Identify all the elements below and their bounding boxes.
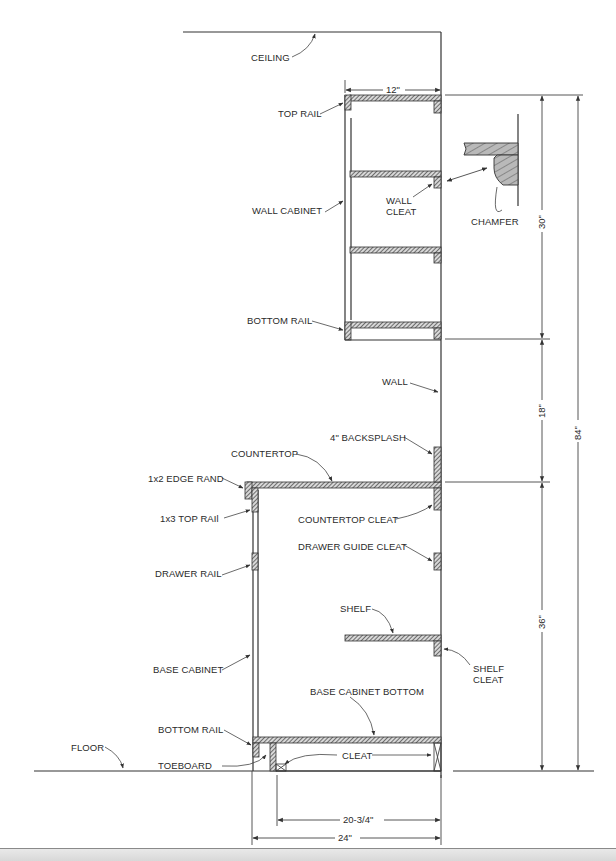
base-bottom-rail bbox=[253, 743, 259, 757]
wall-shelf-2 bbox=[350, 247, 441, 253]
label-base-cabinet-bottom: BASE CABINET BOTTOM bbox=[310, 686, 424, 697]
wall-cabinet-bottom bbox=[350, 322, 441, 328]
base-cabinet-bottom bbox=[253, 737, 441, 743]
label-wall-cleat-1: WALL bbox=[386, 195, 412, 206]
shelf-cleat bbox=[434, 641, 441, 656]
dim-cleat-span: 20-3/4" bbox=[343, 814, 373, 825]
wall-top-rail bbox=[345, 95, 351, 110]
dim-wall-cabinet-depth: 12" bbox=[386, 84, 400, 95]
label-bottom-rail-lower: BOTTOM RAIL bbox=[158, 724, 223, 735]
wall-shelf-1 bbox=[350, 171, 441, 177]
wall-bottom-rail bbox=[345, 322, 351, 340]
wall-cabinet-top bbox=[350, 95, 441, 101]
dim-gap-height: 18" bbox=[536, 404, 547, 418]
label-cleat: CLEAT bbox=[342, 750, 373, 761]
label-drawer-guide-cleat: DRAWER GUIDE CLEAT bbox=[298, 541, 407, 552]
dim-total-height: 84" bbox=[572, 426, 583, 440]
label-chamfer: CHAMFER bbox=[471, 216, 519, 227]
label-shelf: SHELF bbox=[340, 603, 371, 614]
label-edge-band: 1x2 EDGE RAND bbox=[148, 473, 224, 484]
dimension-labels: 12" 30" 18" 36" 84" 20-3/4" 24" bbox=[338, 84, 583, 843]
countertop-cleat bbox=[434, 488, 441, 510]
label-base-cabinet: BASE CABINET bbox=[153, 664, 223, 675]
label-top-rail: TOP RAIL bbox=[278, 108, 322, 119]
label-shelf-cleat-1: SHELF bbox=[473, 663, 504, 674]
vertical-dimensions bbox=[445, 95, 583, 770]
page-edge bbox=[0, 848, 616, 861]
shelf bbox=[345, 635, 441, 641]
label-wall-cleat-2: CLEAT bbox=[386, 206, 417, 217]
drawer-rail bbox=[252, 553, 258, 570]
label-wall-cabinet: WALL CABINET bbox=[252, 205, 322, 216]
label-drawer-rail: DRAWER RAIL bbox=[155, 568, 222, 579]
label-ceiling: CEILING bbox=[251, 52, 290, 63]
label-bottom-rail-upper: BOTTOM RAIL bbox=[247, 315, 312, 326]
label-countertop-cleat: COUNTERTOP CLEAT bbox=[298, 514, 398, 525]
edge-band bbox=[245, 482, 252, 499]
toeboard bbox=[270, 743, 276, 771]
drawer-guide-cleat bbox=[434, 553, 441, 570]
labels: CEILING TOP RAIL WALL CABINET WALL CLEAT… bbox=[71, 52, 519, 771]
dim-base-height: 36" bbox=[536, 615, 547, 629]
label-top-rail-base: 1x3 TOP RAIl bbox=[160, 513, 219, 524]
wall-cabinet bbox=[345, 95, 441, 340]
countertop bbox=[247, 482, 441, 488]
dim-wall-cabinet-height: 30" bbox=[536, 215, 547, 229]
horizontal-dimensions bbox=[252, 80, 441, 845]
label-shelf-cleat-2: CLEAT bbox=[473, 674, 504, 685]
chamfer-detail bbox=[447, 114, 518, 206]
dim-base-depth: 24" bbox=[338, 832, 352, 843]
backsplash bbox=[434, 447, 441, 482]
label-countertop: COUNTERTOP bbox=[231, 448, 298, 459]
label-toeboard: TOEBOARD bbox=[158, 760, 212, 771]
label-backsplash: 4" BACKSPLASH bbox=[330, 432, 406, 443]
leader-lines bbox=[105, 34, 502, 768]
label-floor: FLOOR bbox=[71, 742, 104, 753]
base-top-rail bbox=[252, 488, 258, 512]
label-wall: WALL bbox=[382, 376, 408, 387]
wall-cleat bbox=[434, 177, 441, 188]
